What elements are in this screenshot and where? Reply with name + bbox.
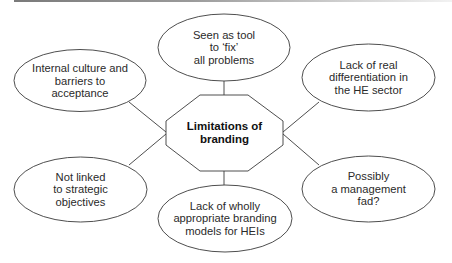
node-top-label: Seen as tool to ‘fix’ all problems xyxy=(158,14,290,81)
center-label: Limitations of branding xyxy=(166,95,283,171)
node-top-right-label: Lack of real differentiation in the HE s… xyxy=(302,44,435,111)
node-top-left-label: Internal culture and barriers to accepta… xyxy=(14,50,146,112)
node-bottom-label: Lack of wholly appropriate branding mode… xyxy=(158,185,292,252)
node-bottom-right-label: Possibly a management fad? xyxy=(302,156,435,222)
node-bottom-left-label: Not linked to strategic objectives xyxy=(14,157,147,222)
